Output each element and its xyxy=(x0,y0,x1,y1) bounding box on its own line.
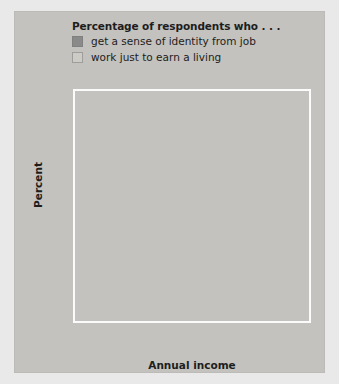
legend-item-living: work just to earn a living xyxy=(72,50,312,65)
bars-layer xyxy=(75,91,309,321)
chart-header: Percentage of respondents who . . . get … xyxy=(72,19,312,65)
legend-swatch-icon xyxy=(72,52,83,63)
chart-title: Percentage of respondents who . . . xyxy=(72,19,312,33)
chart-figure: Percentage of respondents who . . . get … xyxy=(0,0,339,384)
y-axis-label: Percent xyxy=(32,145,44,225)
legend-item-identity: get a sense of identity from job xyxy=(72,34,312,49)
chart-panel: Percentage of respondents who . . . get … xyxy=(14,11,325,373)
legend-swatch-icon xyxy=(72,36,83,47)
legend-label-identity: get a sense of identity from job xyxy=(91,35,256,48)
x-axis-label: Annual income xyxy=(73,359,311,371)
x-axis xyxy=(73,326,311,358)
legend-label-living: work just to earn a living xyxy=(91,51,221,64)
